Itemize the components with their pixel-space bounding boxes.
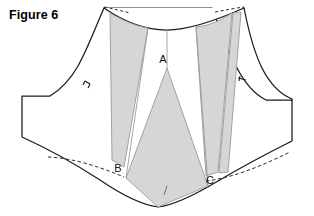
label-a: A [159, 53, 167, 65]
label-c: C [206, 174, 214, 186]
right-shoulder-outline [244, 8, 292, 100]
figure-container: Figure 6 [0, 0, 314, 216]
pattern-drawing: A B C [0, 0, 314, 216]
figure-caption: Figure 6 [9, 8, 58, 22]
label-b: B [114, 162, 121, 174]
